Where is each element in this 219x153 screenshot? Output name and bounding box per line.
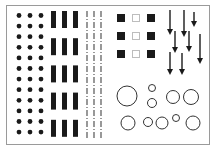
square-grid bbox=[117, 14, 155, 58]
dot bbox=[39, 77, 44, 82]
bar bbox=[73, 120, 78, 137]
dot bbox=[28, 77, 33, 82]
dot bbox=[17, 24, 22, 29]
bar bbox=[62, 11, 67, 28]
bar bbox=[51, 65, 56, 82]
dot bbox=[39, 13, 44, 18]
dot bbox=[39, 24, 44, 29]
dot bbox=[39, 45, 44, 50]
dot bbox=[28, 24, 33, 29]
dot bbox=[39, 34, 44, 39]
hollow-square bbox=[133, 51, 140, 58]
bar bbox=[51, 120, 56, 137]
filled-square bbox=[117, 50, 125, 58]
dot bbox=[17, 98, 22, 103]
dot bbox=[39, 98, 44, 103]
filled-square bbox=[147, 32, 155, 40]
dot bbox=[28, 66, 33, 71]
bar bbox=[51, 38, 56, 55]
dot bbox=[39, 119, 44, 124]
bar bbox=[62, 65, 67, 82]
dot bbox=[28, 56, 33, 61]
dot bbox=[39, 56, 44, 61]
dot bbox=[28, 13, 33, 18]
dot bbox=[17, 34, 22, 39]
bar bbox=[73, 38, 78, 55]
bar bbox=[62, 38, 67, 55]
dot bbox=[17, 45, 22, 50]
bar bbox=[73, 11, 78, 28]
hollow-square bbox=[133, 33, 140, 40]
dot bbox=[17, 56, 22, 61]
dot bbox=[39, 109, 44, 114]
dot bbox=[17, 130, 22, 135]
bar bbox=[62, 93, 67, 110]
dot bbox=[28, 45, 33, 50]
filled-square bbox=[147, 50, 155, 58]
hollow-square bbox=[133, 15, 140, 22]
bar bbox=[51, 11, 56, 28]
dot bbox=[28, 98, 33, 103]
dot bbox=[17, 87, 22, 92]
dot bbox=[39, 87, 44, 92]
dot bbox=[39, 130, 44, 135]
dot bbox=[17, 77, 22, 82]
bar bbox=[51, 93, 56, 110]
bar bbox=[73, 93, 78, 110]
dot bbox=[28, 130, 33, 135]
dot bbox=[28, 87, 33, 92]
filled-square bbox=[147, 14, 155, 22]
dot bbox=[39, 66, 44, 71]
dot bbox=[28, 119, 33, 124]
figure-frame bbox=[7, 6, 210, 145]
dot bbox=[17, 109, 22, 114]
dot bbox=[17, 119, 22, 124]
dot bbox=[28, 34, 33, 39]
filled-square bbox=[117, 32, 125, 40]
bar bbox=[62, 120, 67, 137]
bar bbox=[73, 65, 78, 82]
dot bbox=[17, 66, 22, 71]
dot bbox=[28, 109, 33, 114]
dot bbox=[17, 13, 22, 18]
filled-square bbox=[117, 14, 125, 22]
gestalt-figure bbox=[0, 0, 219, 153]
